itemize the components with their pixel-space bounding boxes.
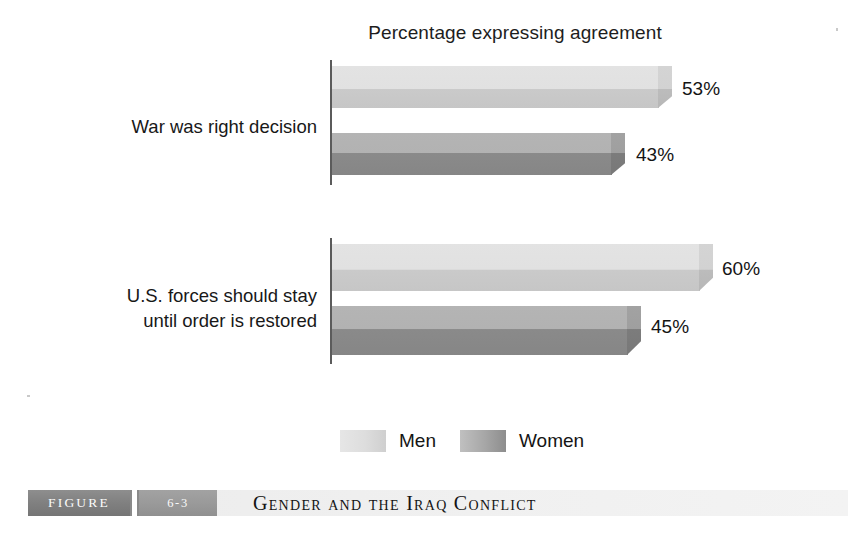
legend-swatch-women-icon [460, 430, 506, 452]
category-label-line: until order is restored [0, 308, 317, 333]
bar-front-face [332, 244, 700, 291]
category-label-line: War was right decision [0, 114, 317, 139]
legend-swatch-men-icon [340, 430, 386, 452]
bar-front-face [332, 306, 628, 355]
bar-women-us-forces-stay [332, 306, 641, 355]
legend-label-women: Women [519, 430, 584, 452]
bar-value-women-war-right-decision: 43% [636, 144, 674, 166]
bar-front-face [332, 133, 612, 175]
caption-figure-number: 6-3 [167, 496, 188, 511]
bar-value-women-us-forces-stay: 45% [651, 316, 689, 338]
bar-men-war-right-decision [332, 66, 672, 108]
legend-label-men: Men [399, 430, 436, 452]
bar-women-war-right-decision [332, 133, 625, 175]
caption-title: Gender and the Iraq Conflict [253, 492, 537, 515]
category-label-group-2: U.S. forces should stay until order is r… [0, 283, 317, 333]
figure-page: Percentage expressing agreement War was … [0, 0, 866, 540]
bar-front-face [332, 66, 659, 108]
legend-item-women: Women [460, 430, 584, 452]
bar-end-cap [627, 306, 641, 355]
scan-speck [27, 395, 30, 397]
caption-number-block: 6-3 [139, 490, 217, 516]
caption-figure-block: FIGURE [28, 490, 130, 516]
caption-divider [130, 490, 139, 516]
bar-men-us-forces-stay [332, 244, 713, 291]
legend-item-men: Men [340, 430, 436, 452]
chart-title: Percentage expressing agreement [330, 22, 700, 44]
bar-end-cap [699, 244, 713, 291]
caption-title-wrap: Gender and the Iraq Conflict [217, 490, 848, 516]
category-label-line: U.S. forces should stay [0, 283, 317, 308]
category-label-group-1: War was right decision [0, 114, 317, 139]
bar-end-cap [611, 133, 625, 175]
caption-figure-word: FIGURE [48, 495, 110, 511]
scan-speck [836, 28, 838, 31]
bar-value-men-us-forces-stay: 60% [722, 258, 760, 280]
bar-value-men-war-right-decision: 53% [682, 78, 720, 100]
bar-end-cap [658, 66, 672, 108]
figure-caption-bar: FIGURE 6-3 Gender and the Iraq Conflict [28, 490, 848, 516]
